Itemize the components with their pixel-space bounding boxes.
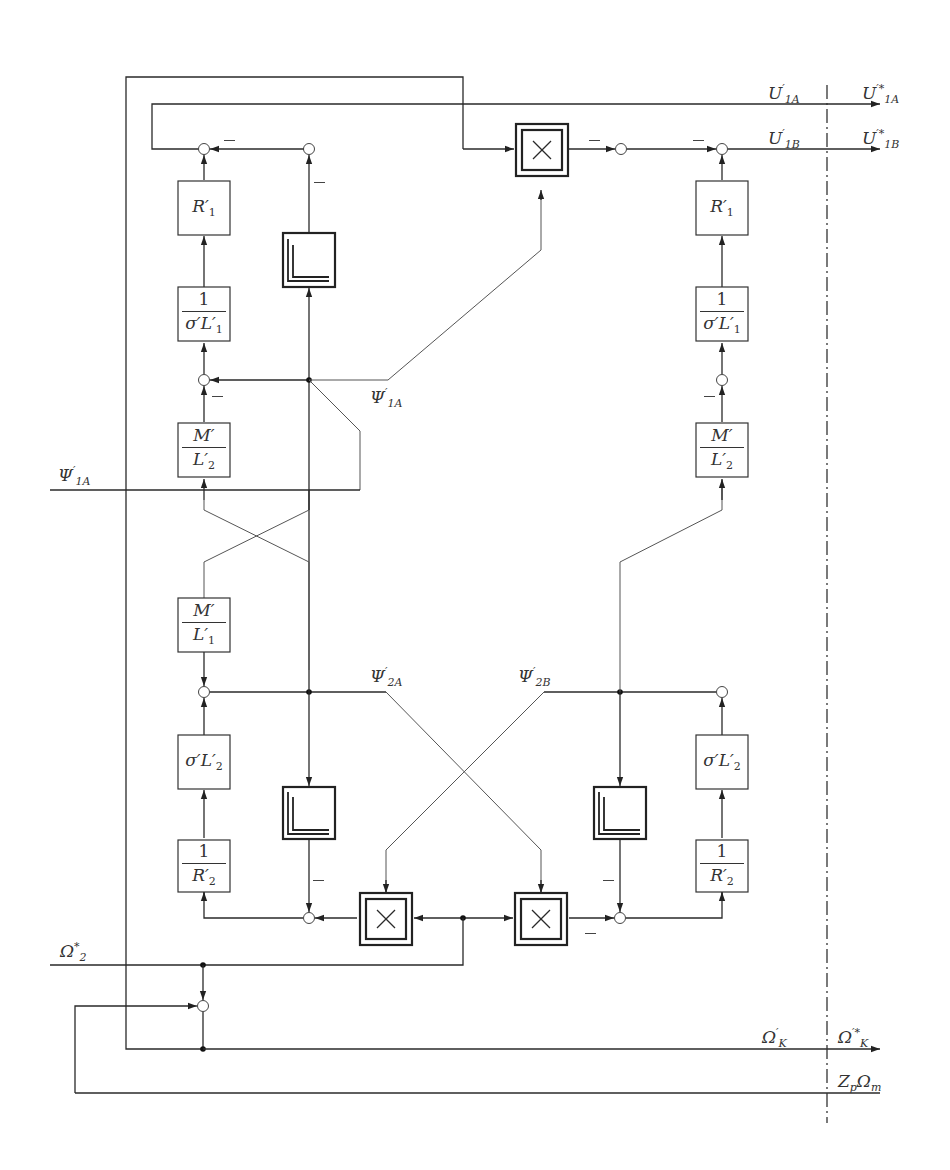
minus-sign [212, 396, 223, 397]
signal-psi2b: Ψ′2B [518, 665, 551, 689]
frac-num: M′ [193, 602, 214, 622]
sig-sup: ′* [852, 1026, 860, 1039]
minus-sign [313, 880, 324, 881]
den-sub: 1 [208, 634, 215, 647]
sig-sub: 1A [387, 397, 402, 410]
frac-den: σ′L′1 [185, 312, 223, 335]
sig-sub: 2B [535, 676, 550, 689]
sig-sub: 2 [80, 951, 87, 964]
den-main: L′ [193, 624, 208, 644]
r1-right-sub: 1 [727, 206, 734, 219]
sig-main: Ψ [518, 666, 533, 686]
den-main: L′ [193, 449, 208, 469]
sig-main: Ω [60, 941, 74, 961]
left-bottom-chain [199, 652, 542, 924]
sig-sub: K [860, 1037, 868, 1050]
block-inv-sigma-l1-right-label: 1 σ′L′1 [696, 291, 748, 335]
den-sub: 2 [727, 875, 734, 888]
sigma-l2-main: σ′L′ [185, 750, 216, 770]
integrator-top-icon [283, 233, 335, 287]
block-m-l2-right-label: M′ L′2 [696, 427, 748, 471]
frac-den: L′2 [711, 448, 733, 471]
sig-main: Ω [762, 1027, 776, 1047]
block-m-l2-left-label: M′ L′2 [178, 427, 230, 471]
frac-num: 1 [717, 291, 728, 311]
sig-sub: 1A [884, 93, 899, 106]
minus-sign [585, 933, 596, 934]
frac-num: 1 [717, 843, 728, 863]
den-main: R′ [192, 865, 209, 885]
den-sub: 2 [209, 875, 216, 888]
block-r1-right-label: R′1 [696, 198, 748, 218]
block-sigma-l2-right-label: σ′L′2 [696, 752, 748, 772]
minus-sign [314, 182, 325, 183]
frac-num: 1 [199, 291, 210, 311]
integrator-bottom-left-icon [283, 787, 335, 839]
minus-sign [693, 140, 704, 141]
sig-sub: K [779, 1037, 787, 1050]
sig-main2: Ω [857, 1071, 871, 1091]
signal-u1b: U′1B [768, 127, 800, 151]
block-inv-r2-right-label: 1 R′2 [696, 843, 748, 887]
den-main: σ′L′ [703, 313, 734, 333]
minus-sign [603, 880, 614, 881]
sig-sub: 1A [75, 475, 90, 488]
sigma-l2-sub: 2 [734, 760, 741, 773]
frac-den: R′2 [710, 864, 734, 887]
signal-psi1a-mid: Ψ′1A [370, 386, 402, 410]
block-inv-sigma-l1-left-label: 1 σ′L′1 [178, 291, 230, 335]
sig-main: Ψ [370, 666, 385, 686]
r1-left-sub: 1 [209, 206, 216, 219]
sig-main: Ω [838, 1027, 852, 1047]
block-m-l1-left-label: M′ L′1 [178, 602, 230, 646]
frac-num: M′ [711, 427, 732, 447]
r1-left-main: R [192, 196, 205, 216]
block-inv-r2-left-label: 1 R′2 [178, 843, 230, 887]
sig-sub: 1A [785, 93, 800, 106]
frac-den: L′2 [193, 448, 215, 471]
den-main: σ′L′ [185, 313, 216, 333]
integrator-bottom-right-icon [594, 787, 646, 839]
frac-num: M′ [193, 427, 214, 447]
den-sub: 2 [208, 459, 215, 472]
sigma-l2-sub: 2 [216, 760, 223, 773]
signal-psi2a: Ψ′2A [370, 665, 402, 689]
signal-u1a-star: U′*1A [862, 82, 899, 106]
sig-main: U [768, 83, 782, 103]
sig-main: U [862, 128, 876, 148]
multiplier-links [50, 915, 880, 1093]
signal-u1a: U′1A [768, 82, 800, 106]
sig-sub: p [850, 1081, 857, 1094]
den-sub: 1 [734, 323, 741, 336]
frac-num: 1 [199, 843, 210, 863]
minus-sign [704, 396, 715, 397]
sigma-l2-main: σ′L′ [703, 750, 734, 770]
minus-sign [224, 140, 235, 141]
den-sub: 2 [726, 459, 733, 472]
block-r1-left-label: R′1 [178, 198, 230, 218]
den-main: R′ [710, 865, 727, 885]
multiplier-bottom-left-icon [360, 893, 412, 945]
r1-right-main: R [710, 196, 723, 216]
multiplier-bottom-right-icon [515, 893, 567, 945]
sig-sub: 2A [387, 676, 402, 689]
signal-omegak: Ω′K [762, 1026, 787, 1050]
block-diagram [0, 0, 950, 1170]
sig-sub2: m [871, 1081, 881, 1094]
sig-main: Ψ [370, 387, 385, 407]
den-main: L′ [711, 449, 726, 469]
signal-zp-omega-m: ZpΩm [838, 1071, 881, 1094]
sig-main: U [862, 83, 876, 103]
sig-main: U [768, 128, 782, 148]
frac-den: L′1 [193, 623, 215, 646]
signal-psi1a-input: Ψ′1A [58, 464, 90, 488]
sig-main: Z [838, 1071, 850, 1091]
den-sub: 1 [216, 323, 223, 336]
sig-sub: 1B [785, 138, 800, 151]
signal-u1b-star: U′*1B [862, 127, 899, 151]
right-bottom-chain [386, 479, 728, 924]
minus-sign [589, 140, 600, 141]
multiplier-top-icon [516, 124, 568, 176]
sig-main: Ψ [58, 465, 73, 485]
block-sigma-l2-left-label: σ′L′2 [178, 752, 230, 772]
